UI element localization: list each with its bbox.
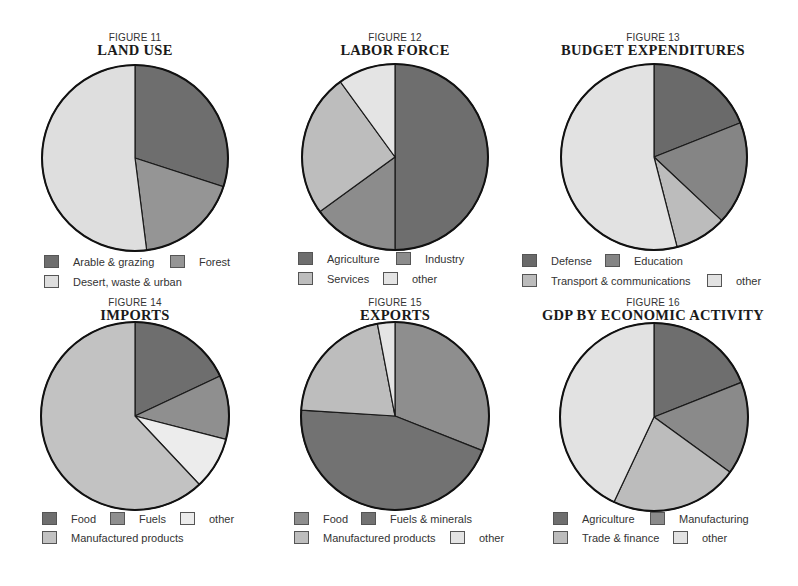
legend-item: other (673, 531, 727, 544)
legend-swatch (673, 531, 688, 544)
legend-label: Agriculture (582, 513, 635, 525)
legend-item: Trade & finance (553, 531, 659, 544)
legend-swatch (553, 531, 568, 544)
pie-chart-gdp-by-economic-activity (0, 0, 798, 586)
legend-label: Trade & finance (582, 532, 659, 544)
legend-swatch (650, 512, 665, 525)
legend-swatch (553, 512, 568, 525)
legend-item: Manufacturing (650, 512, 749, 525)
legend-label: Manufacturing (679, 513, 749, 525)
legend-label: other (702, 532, 727, 544)
legend-item: Agriculture (553, 512, 635, 525)
